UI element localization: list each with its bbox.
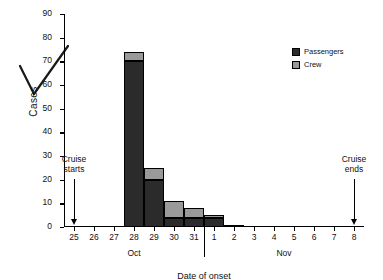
x-tick-label: 6 xyxy=(305,232,323,242)
x-axis-month-label: Oct xyxy=(114,248,154,258)
annotation-arrow-line xyxy=(74,179,75,220)
y-tick-label: 70 xyxy=(43,55,52,65)
x-tick-mark xyxy=(134,227,135,231)
x-tick-mark xyxy=(154,227,155,231)
x-tick-label: 7 xyxy=(325,232,343,242)
x-tick-mark xyxy=(254,227,255,231)
x-tick-label: 27 xyxy=(105,232,123,242)
x-tick-label: 26 xyxy=(85,232,103,242)
x-tick-label: 3 xyxy=(245,232,263,242)
x-tick-mark xyxy=(314,227,315,231)
x-tick-mark xyxy=(94,227,95,231)
annotation-arrow-head xyxy=(351,219,357,225)
x-tick-label: 5 xyxy=(285,232,303,242)
x-tick-label: 30 xyxy=(165,232,183,242)
x-tick-mark xyxy=(214,227,215,231)
x-tick-mark xyxy=(334,227,335,231)
x-tick-label: 1 xyxy=(205,232,223,242)
x-tick-label: 28 xyxy=(125,232,143,242)
legend-item: Passengers xyxy=(292,46,344,57)
x-tick-label: 2 xyxy=(225,232,243,242)
annotation-line-2: ends xyxy=(327,165,381,175)
bar-segment xyxy=(184,218,204,227)
chart-figure: Cases 0102030405060708090 25262728293031… xyxy=(0,0,383,280)
legend-swatch xyxy=(292,48,300,56)
legend-label: Passengers xyxy=(304,47,344,56)
y-tick-label: 10 xyxy=(43,197,52,207)
y-tick-mark xyxy=(60,227,64,228)
bar-segment xyxy=(164,218,184,227)
x-tick-label: 4 xyxy=(265,232,283,242)
bar-segment xyxy=(224,225,244,227)
legend-swatch xyxy=(292,61,300,69)
annotation-text-cruise-ends: Cruiseends xyxy=(327,155,381,174)
legend-item: Crew xyxy=(292,59,344,70)
x-tick-mark xyxy=(174,227,175,231)
y-tick-label: 20 xyxy=(43,174,52,184)
x-tick-mark xyxy=(194,227,195,231)
bar-segment xyxy=(124,61,144,227)
x-tick-label: 29 xyxy=(145,232,163,242)
x-tick-label: 25 xyxy=(65,232,83,242)
y-tick-label: 80 xyxy=(43,32,52,42)
annotation-line-2: starts xyxy=(47,165,101,175)
y-tick-label: 0 xyxy=(47,221,52,231)
x-tick-mark xyxy=(234,227,235,231)
annotation-text-cruise-starts: Cruisestarts xyxy=(47,155,101,174)
x-axis-title: Date of onset xyxy=(144,271,264,280)
bar-segment xyxy=(124,52,144,61)
y-tick-label: 40 xyxy=(43,126,52,136)
y-tick-label: 60 xyxy=(43,79,52,89)
bar-segment xyxy=(144,180,164,227)
bar-segment xyxy=(204,218,224,227)
x-tick-mark xyxy=(354,227,355,231)
bar-segment xyxy=(204,215,224,217)
y-tick-label: 50 xyxy=(43,103,52,113)
x-tick-label: 31 xyxy=(185,232,203,242)
annotation-arrow-head xyxy=(71,219,77,225)
date-of-onset-leader-line xyxy=(204,227,205,257)
x-tick-mark xyxy=(274,227,275,231)
y-axis-title: Cases xyxy=(28,57,39,147)
bar-segment xyxy=(144,168,164,180)
annotation-arrow-line xyxy=(354,179,355,220)
x-tick-mark xyxy=(114,227,115,231)
bar-segment xyxy=(184,208,204,217)
legend-label: Crew xyxy=(304,60,322,69)
y-tick-label: 90 xyxy=(43,8,52,18)
x-tick-mark xyxy=(74,227,75,231)
chart-legend: PassengersCrew xyxy=(292,46,344,72)
x-tick-mark xyxy=(294,227,295,231)
x-axis-month-label: Nov xyxy=(264,248,304,258)
x-tick-label: 8 xyxy=(345,232,363,242)
bar-segment xyxy=(164,201,184,218)
